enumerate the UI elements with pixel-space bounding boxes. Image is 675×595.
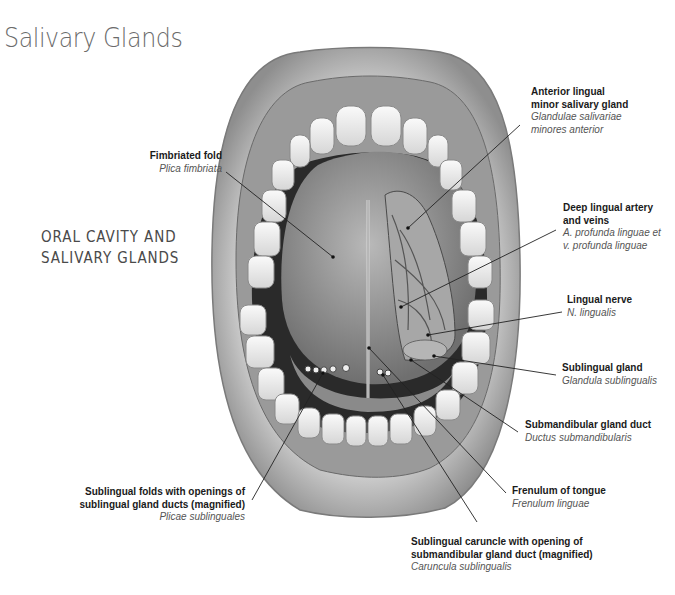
label-deep-lingual-artery: Deep lingual artery and veins A. profund… <box>563 202 661 252</box>
section-subtitle: ORAL CAVITY AND SALIVARY GLANDS <box>41 227 179 269</box>
label-sublingual-gland: Sublingual gland Glandula sublingualis <box>562 362 657 387</box>
label-fimbriated-fold: Fimbriated fold Plica fimbriata <box>150 150 222 175</box>
subtitle-line-2: SALIVARY GLANDS <box>41 248 179 269</box>
label-sublingual-caruncle: Sublingual caruncle with opening of subm… <box>411 536 593 574</box>
label-frenulum: Frenulum of tongue Frenulum linguae <box>512 485 606 510</box>
label-anterior-lingual-gland: Anterior lingual minor salivary gland Gl… <box>531 86 628 136</box>
label-lingual-nerve: Lingual nerve N. lingualis <box>567 294 632 319</box>
subtitle-line-1: ORAL CAVITY AND <box>41 227 179 248</box>
page-title: Salivary Glands <box>4 22 182 53</box>
label-sublingual-folds: Sublingual folds with openings of sublin… <box>79 486 245 524</box>
label-submandibular-duct: Submandibular gland duct Ductus submandi… <box>525 419 651 444</box>
